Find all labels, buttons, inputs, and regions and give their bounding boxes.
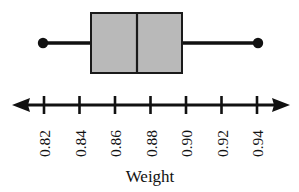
axis-left-arrow-icon: [12, 98, 30, 112]
axis-tick-label: 0.90: [178, 130, 195, 157]
axis-tick-label: 0.84: [72, 130, 89, 157]
axis-tick-labels: 0.82 0.84 0.86 0.88 0.90 0.92 0.94: [36, 130, 266, 157]
axis-tick-label: 0.86: [107, 130, 124, 157]
axis-tick-label: 0.82: [36, 130, 53, 157]
whisker-min-dot: [38, 38, 48, 48]
axis-tick-label: 0.94: [249, 130, 266, 157]
box-plot-figure: 0.82 0.84 0.86 0.88 0.90 0.92 0.94 Weigh…: [0, 0, 299, 192]
whisker-max-dot: [253, 38, 263, 48]
box-plot-canvas: 0.82 0.84 0.86 0.88 0.90 0.92 0.94 Weigh…: [0, 0, 299, 192]
number-line-axis: 0.82 0.84 0.86 0.88 0.90 0.92 0.94: [12, 96, 290, 157]
axis-title-weight: Weight: [126, 167, 175, 186]
axis-right-arrow-icon: [272, 98, 290, 112]
axis-tick-label: 0.88: [143, 130, 160, 157]
box-plot-group: [38, 13, 263, 73]
axis-tick-label: 0.92: [214, 130, 231, 157]
